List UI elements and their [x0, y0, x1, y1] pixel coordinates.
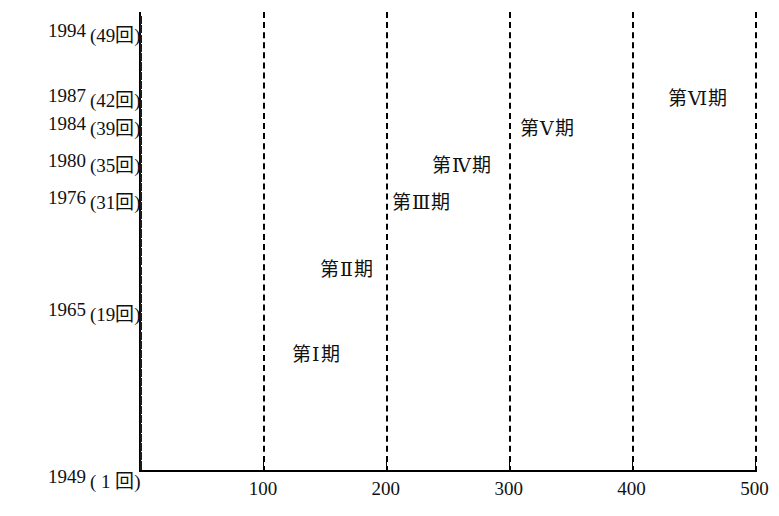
bar [140, 62, 142, 70]
bar [140, 72, 142, 80]
x-tick-label: 200 [372, 478, 401, 500]
y-label-year: 1976 [8, 187, 86, 209]
bar [140, 183, 142, 191]
bar [140, 25, 142, 33]
bar [140, 192, 142, 200]
bar-row [140, 443, 228, 451]
phase-label: 第Ⅴ期 [520, 113, 575, 140]
bar-row [140, 276, 278, 284]
x-axis-line [139, 470, 756, 472]
bar-row [140, 350, 236, 358]
bar [140, 322, 142, 330]
y-label-year: 1980 [8, 150, 86, 172]
bar [140, 359, 142, 367]
y-label-year: 1949 [8, 466, 86, 488]
bar-row [140, 294, 310, 302]
x-tick-label: 100 [249, 478, 278, 500]
bar-row [140, 100, 552, 108]
bar [140, 220, 142, 228]
bar [140, 248, 142, 256]
tick-mark-400 [632, 462, 633, 471]
bar [140, 16, 142, 24]
tick-mark-500 [755, 462, 756, 471]
bar-row [140, 183, 376, 191]
bar [140, 53, 142, 61]
bar [140, 239, 142, 247]
y-label-year: 1987 [8, 85, 86, 107]
bar-row [140, 137, 474, 145]
bar [140, 294, 142, 302]
bar-row [140, 109, 499, 117]
bar-row [140, 322, 278, 330]
y-label-year: 1984 [8, 113, 86, 135]
bar-row [140, 90, 582, 98]
bar-row [140, 239, 322, 247]
bar-row [140, 44, 699, 52]
bar [140, 332, 142, 340]
bar-row [140, 16, 745, 24]
bar [140, 267, 142, 275]
bar-row [140, 146, 445, 154]
bar [140, 118, 142, 126]
tick-mark-100 [263, 462, 264, 471]
phase-label: 第Ⅳ期 [432, 150, 492, 177]
bar [140, 285, 142, 293]
y-label-year: 1994 [8, 20, 86, 42]
bar-row [140, 202, 364, 210]
bar [140, 350, 142, 358]
bar-row [140, 304, 273, 312]
x-tick-label: 500 [740, 478, 769, 500]
bar [140, 44, 142, 52]
bar [140, 369, 142, 377]
bar [140, 137, 142, 145]
bar [140, 424, 142, 432]
gridline-400 [632, 12, 634, 472]
bar-row [140, 164, 420, 172]
bar [140, 164, 142, 172]
bar [140, 202, 142, 210]
bar-row [140, 461, 211, 469]
bar [140, 257, 142, 265]
bar [140, 174, 142, 182]
bar [140, 81, 142, 89]
bar [140, 434, 142, 442]
bar [140, 109, 142, 117]
bar [140, 461, 142, 469]
bar [140, 35, 142, 43]
bar-row [140, 332, 302, 340]
bar [140, 127, 142, 135]
bar [140, 229, 142, 237]
bar [140, 341, 142, 349]
bar-row [140, 211, 346, 219]
bar [140, 443, 142, 451]
bar [140, 155, 142, 163]
bar [140, 396, 142, 404]
bar-row [140, 53, 666, 61]
bar-row [140, 127, 490, 135]
bar-row [140, 285, 281, 293]
bar-row [140, 220, 334, 228]
bar [140, 146, 142, 154]
bar-row [140, 396, 228, 404]
bar-row [140, 72, 650, 80]
bar [140, 211, 142, 219]
bar-row [140, 248, 310, 256]
bar [140, 378, 142, 386]
bar [140, 387, 142, 395]
bar-row [140, 118, 496, 126]
x-tick-label: 400 [617, 478, 646, 500]
bar-chart: 100200300400500 1994(49回)1987(42回)1984(3… [0, 0, 779, 516]
bar [140, 406, 142, 414]
bar [140, 415, 142, 423]
bar [140, 90, 142, 98]
x-tick-label: 300 [494, 478, 523, 500]
phase-label: 第Ⅲ期 [392, 187, 451, 214]
bar-row [140, 387, 236, 395]
bar-row [140, 35, 755, 43]
bar-row [140, 313, 281, 321]
y-label-year: 1965 [8, 299, 86, 321]
bar-row [140, 415, 228, 423]
bar [140, 313, 142, 321]
gridline-500 [755, 12, 757, 472]
bar [140, 452, 142, 460]
